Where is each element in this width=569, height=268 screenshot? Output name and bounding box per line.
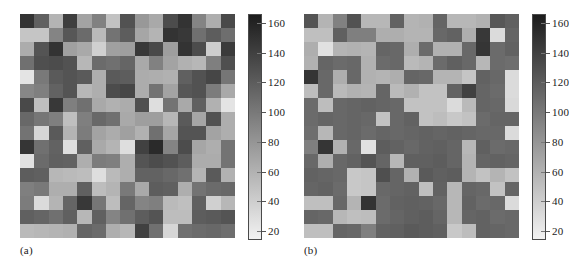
figure-container: 16014012010080604020 (a) 160140120100806… [0, 0, 569, 268]
colorbar-tick-mark [546, 82, 550, 83]
colorbar-tick-label: 100 [268, 107, 285, 118]
colorbar-tick-mark-inner [257, 142, 261, 143]
colorbar-tick-mark-inner [541, 53, 545, 54]
colorbar-tick-mark-inner [541, 112, 545, 113]
colorbar-a-bar [248, 14, 262, 240]
colorbar-tick-mark [262, 112, 266, 113]
colorbar-tick-mark-inner [541, 201, 545, 202]
colorbar-tick-label: 140 [268, 47, 285, 58]
colorbar-tick-mark-inner [257, 53, 261, 54]
colorbar-a: 16014012010080604020 [248, 14, 282, 240]
colorbar-tick-mark-inner [257, 112, 261, 113]
colorbar-tick-mark [262, 53, 266, 54]
colorbar-tick-label: 20 [268, 226, 279, 237]
colorbar-tick-label: 160 [552, 17, 569, 28]
colorbar-tick-label: 100 [552, 107, 569, 118]
colorbar-tick-mark-inner [257, 82, 261, 83]
colorbar-tick-mark [262, 82, 266, 83]
colorbar-tick-mark [262, 23, 266, 24]
colorbar-tick-mark-inner [541, 172, 545, 173]
colorbar-tick-label: 80 [552, 136, 563, 147]
colorbar-tick-mark-inner [257, 201, 261, 202]
panel-b-caption: (b) [304, 244, 317, 256]
colorbar-b-bar [532, 14, 546, 240]
heatmap-a-canvas [20, 14, 235, 238]
colorbar-tick-mark [546, 23, 550, 24]
panel-a-caption: (a) [20, 244, 33, 256]
panel-a: 16014012010080604020 (a) [0, 0, 284, 268]
colorbar-tick-mark [262, 201, 266, 202]
colorbar-tick-mark-inner [541, 23, 545, 24]
colorbar-tick-mark [546, 53, 550, 54]
panel-b: 16014012010080604020 (b) [284, 0, 568, 268]
colorbar-tick-label: 140 [552, 47, 569, 58]
colorbar-tick-mark-inner [257, 231, 261, 232]
colorbar-tick-mark-inner [257, 172, 261, 173]
heatmap-b [304, 14, 519, 238]
colorbar-tick-label: 80 [268, 136, 279, 147]
colorbar-tick-label: 160 [268, 17, 285, 28]
colorbar-tick-label: 20 [552, 226, 563, 237]
colorbar-tick-mark [262, 142, 266, 143]
colorbar-tick-label: 120 [552, 77, 569, 88]
colorbar-tick-mark-inner [257, 23, 261, 24]
colorbar-tick-mark-inner [541, 142, 545, 143]
colorbar-a-gradient [249, 15, 261, 239]
colorbar-b-gradient [533, 15, 545, 239]
colorbar-tick-label: 60 [268, 166, 279, 177]
colorbar-tick-mark [546, 201, 550, 202]
colorbar-tick-mark [546, 142, 550, 143]
colorbar-tick-mark [262, 231, 266, 232]
colorbar-tick-mark [546, 172, 550, 173]
colorbar-tick-mark-inner [541, 231, 545, 232]
heatmap-a [20, 14, 235, 238]
colorbar-tick-mark [262, 172, 266, 173]
colorbar-tick-mark [546, 112, 550, 113]
colorbar-tick-mark-inner [541, 82, 545, 83]
colorbar-tick-label: 40 [268, 196, 279, 207]
colorbar-tick-label: 40 [552, 196, 563, 207]
colorbar-tick-mark [546, 231, 550, 232]
colorbar-tick-label: 120 [268, 77, 285, 88]
colorbar-b: 16014012010080604020 [532, 14, 566, 240]
heatmap-b-canvas [304, 14, 519, 238]
colorbar-tick-label: 60 [552, 166, 563, 177]
